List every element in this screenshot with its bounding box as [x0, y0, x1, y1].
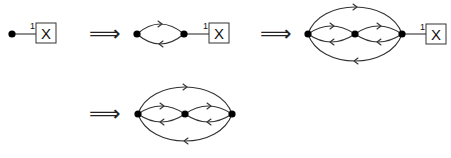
vertex [351, 30, 358, 37]
edge-outer-upper [138, 87, 232, 114]
box-label: X [41, 25, 51, 42]
step-1-diagram: 1 X [8, 21, 56, 43]
port-label: 1 [420, 22, 425, 32]
vertex [398, 30, 405, 37]
port-label: 1 [203, 21, 208, 31]
step-4-diagram [134, 84, 235, 144]
edge-outer-lower [138, 114, 232, 141]
vertex [181, 110, 188, 117]
vertex [8, 30, 15, 37]
vertex [180, 30, 187, 37]
implies-arrow-1: ⟹ [89, 21, 121, 46]
box-label: X [431, 26, 441, 43]
vertex [228, 110, 235, 117]
step-2-diagram: 1 X [133, 21, 229, 47]
vertex [304, 30, 311, 37]
vertex [133, 30, 140, 37]
edge-outer-upper [308, 7, 402, 34]
implies-arrow-3: ⟹ [89, 101, 121, 126]
implies-arrow-2: ⟹ [260, 21, 292, 46]
step-3-diagram: 1 X [304, 4, 446, 64]
diagram-canvas: 1 X ⟹ 1 X ⟹ 1 X ⟹ [0, 0, 451, 158]
port-label: 1 [30, 21, 35, 31]
edge-outer-lower [308, 34, 402, 61]
box-label: X [214, 25, 224, 42]
vertex [134, 110, 141, 117]
